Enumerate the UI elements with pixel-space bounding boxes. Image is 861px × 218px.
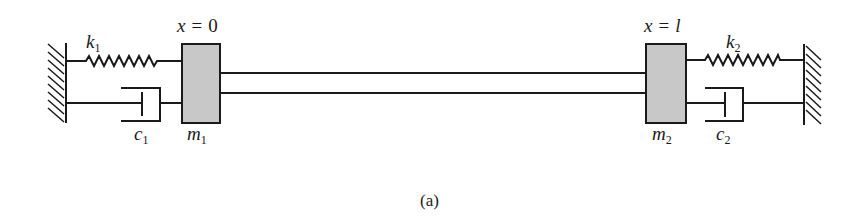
label-c1: c1 — [134, 123, 148, 147]
right-mass — [646, 44, 686, 123]
label-m1: m1 — [187, 123, 207, 147]
left-damper — [66, 88, 182, 121]
label-x-equals-l: x=l — [643, 15, 680, 36]
label-x-equals-0: x=0 — [176, 15, 218, 36]
rod — [220, 73, 646, 93]
left-wall — [48, 43, 66, 123]
figure-caption: (a) — [420, 191, 439, 210]
right-damper — [686, 88, 804, 121]
label-m2: m2 — [652, 123, 672, 147]
right-wall — [804, 44, 821, 125]
left-spring — [66, 56, 182, 66]
left-mass — [182, 44, 220, 123]
spring-mass-damper-diagram: k1 x=0 c1 m1 x=l k2 m2 c2 (a) — [0, 0, 861, 218]
label-k2: k2 — [726, 31, 740, 55]
label-c2: c2 — [716, 123, 730, 147]
label-k1: k1 — [86, 31, 100, 55]
right-spring — [686, 55, 804, 65]
